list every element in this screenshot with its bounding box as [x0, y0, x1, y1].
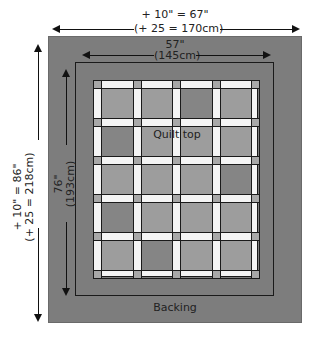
- sashing-line: [94, 240, 257, 241]
- sashing-line: [101, 81, 102, 276]
- inner-height-label: 76" (193cm): [53, 148, 79, 220]
- quilt-block: [220, 126, 253, 157]
- sashing-line: [94, 88, 257, 89]
- quilt-block: [180, 202, 213, 233]
- quilt-block: [220, 240, 253, 271]
- inner-width-arrow-right: [196, 55, 266, 56]
- sashing-line: [94, 164, 257, 165]
- quilt-block: [220, 202, 253, 233]
- top-dimension-line2: (+ 25 = 170cm): [134, 23, 220, 35]
- quilt-top-label: Quilt top: [142, 129, 212, 141]
- sashing-line: [259, 81, 260, 276]
- quilt-block: [141, 240, 174, 271]
- arrow-right-icon: [292, 25, 300, 33]
- top-dimension-arrow-right: [220, 29, 294, 30]
- backing-label: Backing: [150, 302, 200, 314]
- inner-width-arrow-left: [88, 55, 154, 56]
- quilt-block: [101, 164, 134, 195]
- arrow-right-icon: [263, 51, 271, 59]
- quilt-block: [220, 164, 253, 195]
- sashing-line: [141, 81, 142, 276]
- sashing-line: [94, 270, 257, 271]
- sashing-line: [172, 81, 173, 276]
- left-dimension-label: + 10" = 86" (+ 25 = 218cm): [12, 137, 38, 257]
- left-dimension-arrow-bottom: [38, 228, 39, 314]
- quilt-block: [220, 88, 253, 119]
- sashing-line: [94, 232, 257, 233]
- quilt-block: [180, 164, 213, 195]
- quilt-block: [141, 164, 174, 195]
- quilt-block: [141, 88, 174, 119]
- top-dimension-line1: + 10" = 67": [100, 9, 250, 21]
- quilt-block: [101, 126, 134, 157]
- arrow-left-icon: [52, 25, 60, 33]
- arrow-up-icon: [62, 69, 70, 77]
- quilt-block: [180, 240, 213, 271]
- sashing-line: [180, 81, 181, 276]
- quilt-block: [180, 88, 213, 119]
- left-dimension-arrow-top: [38, 52, 39, 140]
- top-dimension-label: + 10" = 67": [100, 9, 250, 21]
- quilt-block: [141, 202, 174, 233]
- sashing-line: [94, 202, 257, 203]
- arrow-up-icon: [34, 44, 42, 52]
- arrow-left-icon: [82, 51, 90, 59]
- quilt-block: [101, 202, 134, 233]
- quilt-top-grid: [93, 80, 258, 277]
- sashing-line: [94, 156, 257, 157]
- top-dimension-arrow-left: [58, 29, 134, 30]
- inner-height-arrow-top: [66, 77, 67, 145]
- sashing-line: [93, 81, 94, 276]
- sashing-line: [94, 278, 257, 279]
- sashing-line: [220, 81, 221, 276]
- sashing-line: [133, 81, 134, 276]
- arrow-down-icon: [62, 288, 70, 296]
- sashing-line: [251, 81, 252, 276]
- quilt-block: [101, 240, 134, 271]
- sashing-line: [94, 194, 257, 195]
- sashing-line: [94, 80, 257, 81]
- arrow-down-icon: [34, 314, 42, 322]
- quilt-block: [101, 88, 134, 119]
- sashing-line: [94, 118, 257, 119]
- sashing-line: [212, 81, 213, 276]
- inner-height-arrow-bottom: [66, 222, 67, 288]
- sashing-line: [94, 126, 257, 127]
- inner-width-line2: (145cm): [154, 50, 196, 62]
